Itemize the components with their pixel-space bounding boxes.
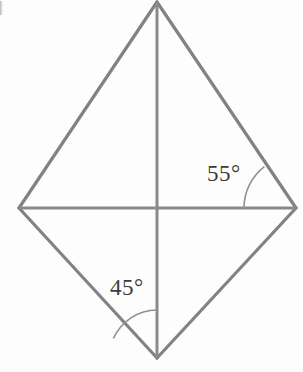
angle-arc-55 (244, 167, 264, 208)
edge-right-bottom (157, 208, 296, 358)
geometry-figure: 55° 45° (0, 0, 303, 372)
geometry-canvas (0, 0, 303, 372)
edge-top-left (19, 2, 157, 208)
angle-label-55: 55° (207, 162, 241, 185)
scan-artifact (0, 1, 3, 15)
angle-label-45: 45° (110, 276, 144, 299)
